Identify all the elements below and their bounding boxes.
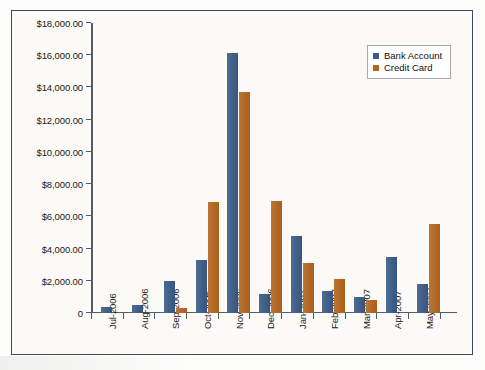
y-axis-tick	[86, 280, 91, 281]
y-axis-label: $18,000.00	[36, 18, 83, 29]
x-axis-tick	[249, 313, 250, 319]
bar-credit-card	[366, 300, 377, 313]
x-axis-tick	[440, 313, 441, 319]
x-axis-tick	[91, 313, 92, 319]
bar-credit-card	[176, 308, 187, 313]
chart-legend: Bank AccountCredit Card	[367, 45, 451, 79]
legend-item-label: Credit Card	[384, 62, 433, 74]
x-axis-tick	[345, 313, 346, 319]
y-axis-tick	[86, 54, 91, 55]
y-axis-label: $10,000.00	[36, 146, 83, 157]
chart-frame: 0$2,000.00$4,000.00$6,000.00$8,000.00$10…	[11, 10, 473, 355]
y-axis-tick	[86, 183, 91, 184]
y-axis-tick	[86, 119, 91, 120]
y-axis-tick	[86, 86, 91, 87]
bar-bank-account	[132, 305, 143, 313]
y-axis-label: $4,000.00	[42, 243, 83, 254]
bar-credit-card	[271, 201, 282, 313]
y-axis-label: $6,000.00	[42, 211, 83, 222]
legend-item: Credit Card	[373, 62, 442, 74]
x-axis-tick	[281, 313, 282, 319]
y-axis-line	[91, 23, 93, 313]
bar-credit-card	[303, 263, 314, 313]
bar-bank-account	[417, 284, 428, 313]
x-axis-tick	[186, 313, 187, 319]
bar-bank-account	[164, 281, 175, 313]
legend-item-label: Bank Account	[384, 50, 442, 62]
legend-swatch-bank	[373, 53, 379, 59]
bar-bank-account	[196, 260, 207, 313]
bar-bank-account	[101, 307, 112, 313]
bar-bank-account	[291, 236, 302, 313]
x-axis-tick	[154, 313, 155, 319]
legend-item: Bank Account	[373, 50, 442, 62]
x-axis-tick	[408, 313, 409, 319]
y-axis-tick	[86, 248, 91, 249]
x-axis-tick	[313, 313, 314, 319]
x-axis-tick	[123, 313, 124, 319]
y-axis-label: $16,000.00	[36, 50, 83, 61]
y-axis-label: $8,000.00	[42, 179, 83, 190]
bar-bank-account	[386, 257, 397, 313]
bar-bank-account	[259, 294, 270, 313]
y-axis-label: $14,000.00	[36, 82, 83, 93]
bar-bank-account	[322, 291, 333, 313]
y-axis-tick	[86, 151, 91, 152]
y-axis-tick	[86, 215, 91, 216]
x-axis-tick	[376, 313, 377, 319]
x-axis-tick	[218, 313, 219, 319]
y-axis-tick	[86, 22, 91, 23]
bar-credit-card	[239, 92, 250, 313]
y-axis-label: 0	[78, 308, 83, 319]
y-axis-label: $2,000.00	[42, 275, 83, 286]
bar-bank-account	[227, 53, 238, 313]
y-axis-label: $12,000.00	[36, 114, 83, 125]
bar-credit-card	[429, 224, 440, 313]
bar-credit-card	[334, 279, 345, 313]
bar-bank-account	[354, 297, 365, 313]
legend-swatch-credit	[373, 65, 379, 71]
bar-credit-card	[208, 202, 219, 313]
